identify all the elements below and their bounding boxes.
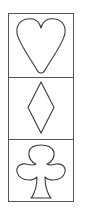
suit-symbol-grid	[8, 13, 74, 202]
panel-frame	[9, 14, 74, 202]
suit-symbol-panel	[8, 13, 74, 202]
